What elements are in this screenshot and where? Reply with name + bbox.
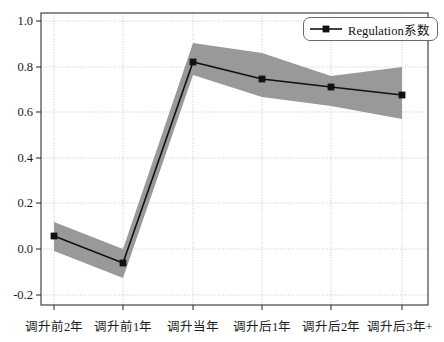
x-tick-label-2: 调升前1年 [94,316,152,335]
y-tick-label-5: 0.2 [2,196,33,211]
x-tick-label-6: 调升后3年+ [367,316,432,335]
y-tick-label-4: 0.4 [2,151,33,166]
data-point-marker [190,59,197,66]
data-point-marker [328,84,335,91]
data-point-marker [51,233,58,240]
x-tick-label-5: 调升后2年 [302,316,360,335]
y-tick-label-1: 1.0 [2,14,33,29]
data-point-marker [259,76,266,83]
legend-line-marker-icon [309,23,343,35]
y-tick-label-2: 0.8 [2,60,33,75]
data-point-marker [120,260,127,267]
x-tick-label-4: 调升后1年 [233,316,291,335]
y-axis-ticks [36,21,41,295]
data-point-marker [399,92,406,99]
chart-legend: Regulation系数 [303,17,438,41]
x-tick-label-1: 调升前2年 [25,316,83,335]
y-tick-label-3: 0.6 [2,105,33,120]
y-tick-label-6: 0.0 [2,242,33,257]
chart-container: 1.0 0.8 0.6 0.4 0.2 0.0 -0.2 调升前2年 调升前1年… [0,0,444,342]
chart-plot-area [0,0,444,342]
legend-label-regulation: Regulation系数 [348,20,430,39]
y-tick-label-7: -0.2 [0,288,33,303]
x-axis-ticks [54,305,402,310]
x-tick-label-3: 调升当年 [167,316,219,335]
